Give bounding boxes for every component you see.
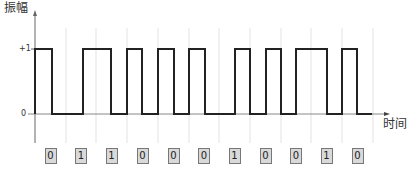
bit-label-box: 1 (321, 148, 333, 164)
bit-label-box: 0 (137, 148, 149, 164)
bit-label-box: 1 (106, 148, 118, 164)
bit-label-box: 0 (290, 148, 302, 164)
tick-label-high: +1 (19, 44, 31, 53)
bit-label-box: 0 (45, 148, 57, 164)
bit-label-box: 0 (168, 148, 180, 164)
bit-label-box: 0 (198, 148, 210, 164)
x-axis-label: 时间 (383, 118, 407, 130)
y-axis-arrow-icon (33, 10, 37, 16)
bit-label-box: 1 (229, 148, 241, 164)
tick-label-low: 0 (21, 109, 26, 118)
bit-label-box: 1 (75, 148, 87, 164)
bit-label-box: 0 (352, 148, 364, 164)
y-axis-label: 振幅 (4, 2, 28, 14)
x-axis-arrow-icon (384, 112, 390, 116)
signal-waveform (35, 49, 372, 114)
bit-label-box: 0 (260, 148, 272, 164)
